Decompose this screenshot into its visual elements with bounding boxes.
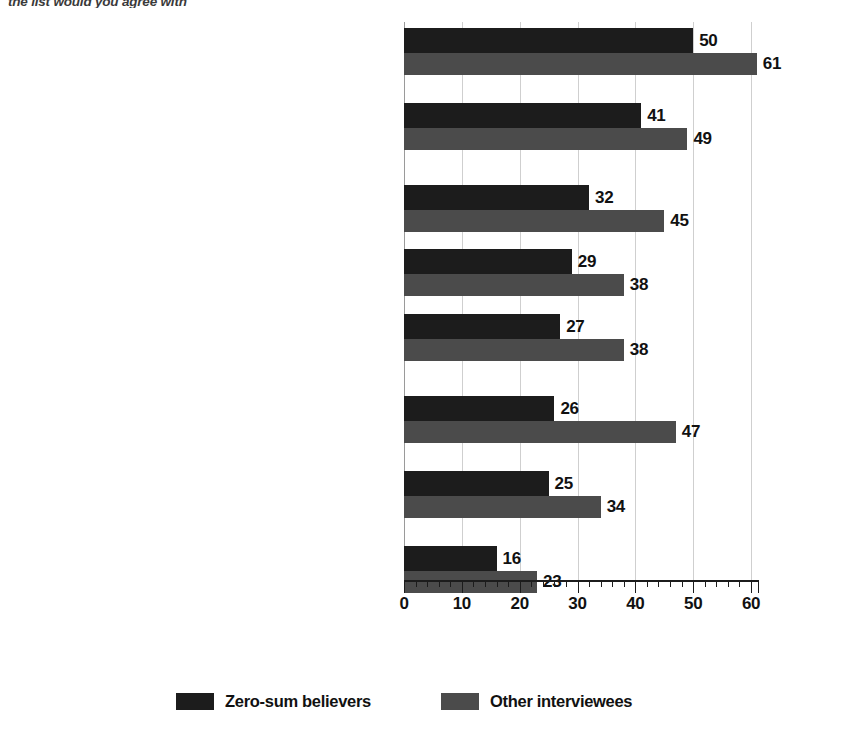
minor-tick-56 <box>728 580 729 587</box>
x-tick-label-20: 20 <box>511 594 529 614</box>
x-tick-label-30: 30 <box>568 594 586 614</box>
bar-value-label: 26 <box>560 396 578 421</box>
minor-tick-36 <box>612 580 613 587</box>
minor-tick-24 <box>543 580 544 587</box>
x-axis: 0102030405060 <box>404 580 759 596</box>
minor-tick-42 <box>647 580 648 587</box>
legend-label: Other interviewees <box>490 692 632 711</box>
bar-other-interviewees[interactable] <box>404 496 601 518</box>
bar-group: When it comes to getting rich, the decis… <box>404 103 758 153</box>
bar-zero-sum-believers[interactable] <box>404 185 589 210</box>
minor-tick-4 <box>427 580 428 587</box>
minor-tick-16 <box>497 580 498 587</box>
bar-zero-sum-believers[interactable] <box>404 103 641 128</box>
minor-tick-54 <box>716 580 717 587</box>
bar-zero-sum-believers[interactable] <box>404 28 693 53</box>
minor-tick-26 <box>554 580 555 587</box>
major-tick-0 <box>404 580 405 593</box>
bar-other-interviewees[interactable] <box>404 421 676 443</box>
bar-group: Becoming rich primarily dependson what a… <box>404 249 758 299</box>
legend-item-zero-sum-believers[interactable]: Zero-sum believers <box>176 692 371 711</box>
bar-value-label: 29 <box>578 249 596 274</box>
horizontal-bar-chart: Rich people who have succeeded through t… <box>0 0 847 744</box>
minor-tick-32 <box>589 580 590 587</box>
minor-tick-28 <box>566 580 567 587</box>
x-tick-label-40: 40 <box>626 594 644 614</box>
legend-swatch <box>176 693 214 710</box>
minor-tick-6 <box>439 580 440 587</box>
bar-value-label: 61 <box>763 53 781 75</box>
minor-tick-58 <box>739 580 740 587</box>
chart-legend: Zero-sum believersOther interviewees <box>0 692 847 722</box>
bar-group: Rich people who have succeeded through t… <box>404 28 758 78</box>
plot-area: Rich people who have succeeded through t… <box>404 22 758 580</box>
major-tick-10 <box>462 580 463 593</box>
major-tick-40 <box>635 580 636 593</box>
bar-other-interviewees[interactable] <box>404 53 757 75</box>
bar-other-interviewees[interactable] <box>404 128 687 150</box>
bar-group: Many rich people become rich becausethey… <box>404 185 758 235</box>
bar-zero-sum-believers[interactable] <box>404 249 572 274</box>
minor-tick-46 <box>670 580 671 587</box>
bar-value-label: 41 <box>647 103 665 128</box>
major-tick-50 <box>693 580 694 593</box>
bar-value-label: 45 <box>670 210 688 232</box>
bar-group: Rich people are generally veryindustriou… <box>404 396 758 446</box>
x-tick-label-60: 60 <box>742 594 760 614</box>
bar-group: Society as a whole benefits from the exi… <box>404 471 758 521</box>
bar-value-label: 38 <box>630 274 648 296</box>
minor-tick-34 <box>601 580 602 587</box>
minor-tick-44 <box>658 580 659 587</box>
bar-zero-sum-believers[interactable] <box>404 471 549 496</box>
minor-tick-52 <box>705 580 706 587</box>
bar-value-label: 16 <box>503 546 521 571</box>
major-tick-30 <box>578 580 579 593</box>
x-tick-label-50: 50 <box>684 594 702 614</box>
bar-value-label: 47 <box>682 421 700 443</box>
x-tick-label-10: 10 <box>453 594 471 614</box>
minor-tick-12 <box>473 580 474 587</box>
major-tick-60 <box>751 580 752 593</box>
legend-item-other-interviewees[interactable]: Other interviewees <box>441 692 632 711</box>
legend-label: Zero-sum believers <box>225 692 371 711</box>
bar-value-label: 38 <box>630 339 648 361</box>
minor-tick-22 <box>531 580 532 587</box>
minor-tick-48 <box>682 580 683 587</box>
minor-tick-8 <box>450 580 451 587</box>
minor-tick-14 <box>485 580 486 587</box>
bar-zero-sum-believers[interactable] <box>404 396 554 421</box>
minor-tick-38 <box>624 580 625 587</box>
legend-swatch <box>441 693 479 710</box>
bar-other-interviewees[interactable] <box>404 210 664 232</box>
axis-endcap <box>758 580 759 593</box>
bar-value-label: 49 <box>693 128 711 150</box>
x-tick-label-0: 0 <box>399 594 408 614</box>
bar-zero-sum-believers[interactable] <box>404 314 560 339</box>
minor-tick-2 <box>416 580 417 587</box>
bar-group: Society as a whole benefits from the exi… <box>404 314 758 364</box>
bar-value-label: 50 <box>699 28 717 53</box>
bar-value-label: 25 <box>555 471 573 496</box>
minor-tick-18 <box>508 580 509 587</box>
bar-value-label: 34 <box>607 496 625 518</box>
bar-value-label: 32 <box>595 185 613 210</box>
bar-other-interviewees[interactable] <box>404 274 624 296</box>
major-tick-20 <box>520 580 521 593</box>
bar-value-label: 27 <box>566 314 584 339</box>
bar-other-interviewees[interactable] <box>404 339 624 361</box>
bar-zero-sum-believers[interactable] <box>404 546 497 571</box>
